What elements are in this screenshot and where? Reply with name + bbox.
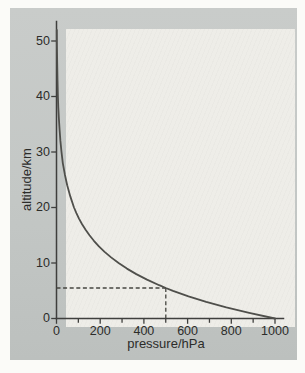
pressure-altitude-curve (57, 30, 275, 319)
xtick-label: 1000 (253, 324, 297, 339)
ytick-label: 10 (4, 256, 50, 271)
y-major-ticks (51, 41, 56, 319)
ytick-label: 50 (4, 34, 50, 49)
x-axis-title: pressure/hPa (106, 336, 226, 351)
figure: 01020304050 02004006008001000 altitude/k… (0, 0, 305, 373)
xtick-label: 0 (35, 324, 79, 339)
y-axis-title: altitude/km (19, 135, 34, 225)
ytick-label: 40 (4, 89, 50, 104)
